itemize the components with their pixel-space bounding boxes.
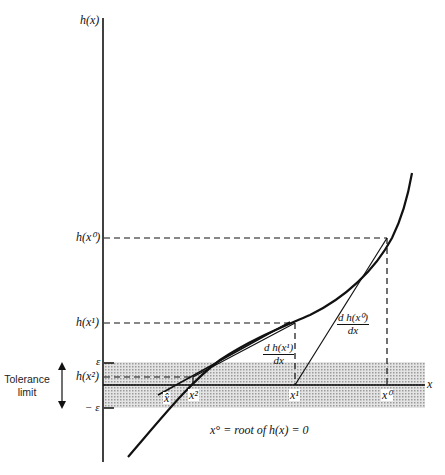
tolerance-label-line1: Tolerance [4, 373, 50, 386]
x-axis-label: x [427, 378, 432, 390]
tangent-x0-label: d h(x⁰) dx [337, 312, 369, 336]
h-x1-label: h(x¹) [76, 316, 99, 328]
function-curve [128, 173, 412, 457]
x0-label: x⁰ [381, 389, 393, 401]
h-x2-label: h(x²) [76, 370, 99, 382]
tangent-x1-numerator: d h(x¹) [263, 342, 294, 355]
xhat-label: x̂ [163, 392, 170, 404]
tangent-x1-denominator: dx [263, 355, 294, 367]
h-x0-label: h(x⁰) [76, 231, 100, 243]
epsilon-label: ε [96, 356, 100, 367]
y-axis-label: h(x) [80, 14, 99, 26]
diagram-canvas [0, 0, 445, 475]
neg-epsilon-label: − ε [85, 402, 100, 413]
tolerance-arrow-down-icon [58, 401, 66, 409]
root-caption: x° = root of h(x) = 0 [210, 424, 309, 436]
tolerance-label: Tolerance limit [4, 373, 50, 399]
tolerance-label-line2: limit [4, 386, 50, 399]
tangent-x0-denominator: dx [337, 325, 369, 337]
x2-label: x² [188, 389, 199, 401]
tangent-x1-label: d h(x¹) dx [263, 342, 294, 366]
tangent-x0-numerator: d h(x⁰) [337, 312, 369, 325]
x1-label: x¹ [289, 389, 300, 401]
tolerance-arrow-up-icon [58, 362, 66, 370]
